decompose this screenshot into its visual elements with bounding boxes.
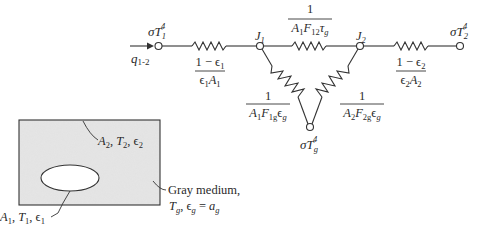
node-J1-label: J1 — [255, 29, 265, 45]
svg-text:1: 1 — [265, 89, 271, 103]
resistor-surface2-label: 1 − ϵ2 ϵ2A2 — [396, 55, 426, 89]
resistor-J1-J2 — [292, 42, 326, 50]
resistor-J1-J2-label: 1 A1F12τg — [288, 2, 332, 37]
svg-text:A2F2gϵg: A2F2gϵg — [342, 106, 380, 122]
svg-text:1 − ϵ1: 1 − ϵ1 — [196, 55, 225, 71]
svg-text:ϵ1A1: ϵ1A1 — [199, 73, 220, 89]
node-surface2-label: σT24 — [450, 21, 469, 41]
resistor-J1-gas — [271, 66, 304, 97]
heat-flow-arrow-icon — [147, 43, 154, 50]
node-surface2 — [457, 43, 464, 50]
gray-medium-properties-label: Tg, ϵg = ag — [169, 199, 220, 215]
heat-flow-label: q1-2 — [131, 51, 150, 67]
svg-text:A1F12τg: A1F12τg — [291, 21, 329, 37]
surface2-properties-label: A2, T2, ϵ2 — [97, 134, 143, 150]
surface1-ellipse — [41, 165, 99, 191]
resistor-surface1-label: 1 − ϵ1 ϵ1A1 — [195, 55, 225, 89]
svg-text:1 − ϵ2: 1 − ϵ2 — [397, 55, 426, 71]
node-surface1-label: σT14 — [148, 21, 166, 41]
node-gas-label: σTg4 — [300, 134, 318, 154]
enclosure — [19, 120, 166, 217]
svg-text:1: 1 — [307, 2, 313, 16]
resistor-surface1 — [192, 42, 226, 50]
radiation-network-diagram: q1-2 σT14 J1 J2 σT24 σTg4 1 − ϵ1 ϵ1A1 1 … — [0, 0, 486, 236]
node-gas — [307, 124, 314, 131]
svg-text:A1F1gϵg: A1F1gϵg — [248, 106, 286, 122]
node-J2-label: J2 — [356, 29, 367, 45]
resistor-surface2 — [394, 42, 428, 50]
svg-text:1: 1 — [359, 89, 365, 103]
gray-medium-label: Gray medium, — [168, 183, 240, 197]
node-surface1 — [155, 43, 162, 50]
resistor-J1-gas-label: 1 A1F1gϵg — [246, 89, 290, 122]
resistor-J2-gas — [316, 66, 349, 97]
surface1-properties-label: A1, T1, ϵ1 — [0, 210, 45, 226]
resistor-J2-gas-label: 1 A2F2gϵg — [340, 89, 384, 122]
svg-text:ϵ2A2: ϵ2A2 — [400, 73, 421, 89]
